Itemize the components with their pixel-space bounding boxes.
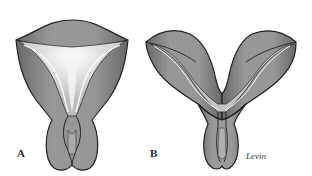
panel-label-b: B (150, 147, 157, 159)
figure-a (16, 20, 128, 170)
artist-signature: Levin (246, 151, 266, 161)
figure-b (146, 31, 296, 169)
panel-label-a: A (17, 147, 25, 159)
